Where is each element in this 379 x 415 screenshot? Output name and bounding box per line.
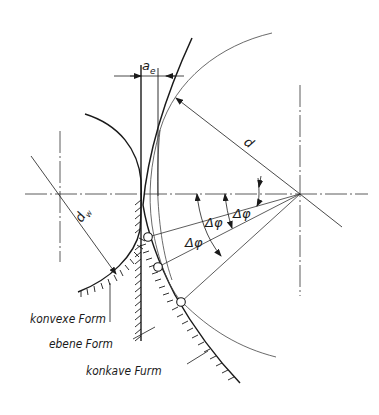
contact-point-flat bbox=[154, 263, 163, 272]
convex-form-label: konvexe Form bbox=[30, 312, 106, 325]
flat-form-label: ebene Form bbox=[49, 337, 113, 350]
flat-form bbox=[135, 65, 141, 341]
form-geometry-diagram: ae d dw Δφ Δφ Δφ konvexe Form ebene Form… bbox=[0, 0, 379, 415]
d-dimension bbox=[176, 98, 342, 227]
reference-arcs bbox=[150, 33, 276, 357]
ae-label: ae bbox=[142, 59, 156, 76]
contact-points bbox=[144, 233, 186, 307]
contact-point-convex bbox=[144, 233, 153, 242]
delta-phi-label-3: Δφ bbox=[185, 236, 202, 249]
delta-phi-label-1: Δφ bbox=[233, 207, 250, 220]
delta-phi-label-2: Δφ bbox=[205, 216, 222, 229]
convex-form bbox=[78, 114, 145, 297]
concave-form-label: konkave Furm bbox=[86, 364, 162, 377]
diagram-canvas bbox=[0, 0, 379, 415]
contact-point-concave bbox=[177, 298, 186, 307]
convex-hatching bbox=[81, 238, 145, 297]
concave-form bbox=[140, 38, 240, 383]
centerlines bbox=[25, 85, 368, 296]
